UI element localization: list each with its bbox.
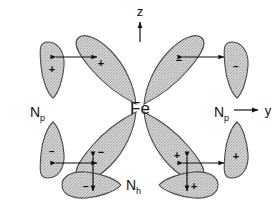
fe-lobe-upper-left [76,36,136,104]
sign-np-left-lower: − [49,146,55,157]
fe-lobe-lower-right [144,112,204,180]
np-right-label: N [214,104,224,120]
sign-fe-lower-right: + [174,149,180,161]
y-axis-label: y [265,103,272,118]
fe-lobe-upper-right [144,36,204,104]
axis-y: y [234,103,272,118]
sign-np-right-lower: + [233,150,239,162]
sign-np-left-upper: + [49,63,55,75]
np-left-label-sub: p [40,113,45,123]
axis-z: z [137,4,144,42]
nh-bottom-right [159,172,218,198]
nh-label: N [126,177,136,193]
nh-label-sub: h [136,186,141,196]
np-right-label-sub: p [224,113,229,123]
orbital-diagram: + + − − − − + + − + Fe N p N p N h z y [0,0,280,220]
sign-fe-lower-left: − [98,146,104,158]
fe-lobe-lower-left [76,112,136,180]
center-atom-label: Fe [130,99,150,118]
sign-nh-bottom-right: + [191,180,197,192]
nh-bottom-left [62,172,121,198]
diagram-canvas: + + − − − − + + − + Fe N p N p N h z y [0,0,280,220]
sign-np-right-upper: − [233,61,239,72]
np-left-label: N [30,104,40,120]
sign-fe-upper-right: − [176,54,182,66]
sign-nh-bottom-left: − [83,181,89,192]
sign-fe-upper-left: + [98,57,104,69]
z-axis-label: z [137,4,144,19]
